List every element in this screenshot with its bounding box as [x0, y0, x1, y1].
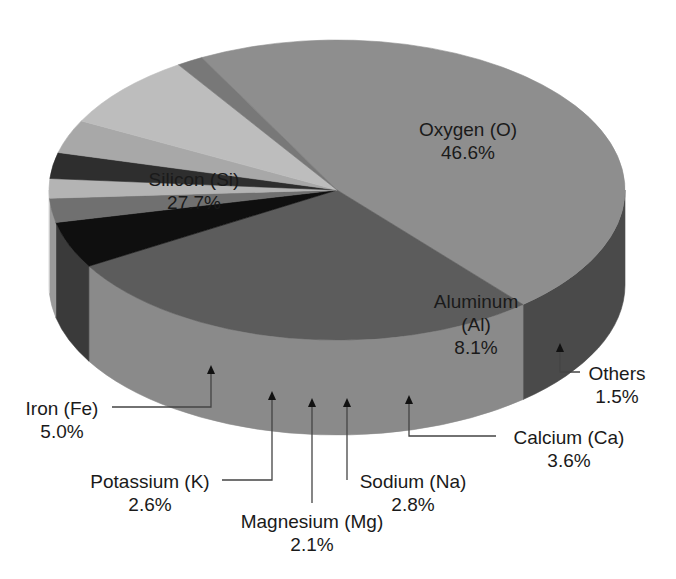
pie-top-faces	[49, 40, 625, 340]
label-aluminum: Aluminum (Al) 8.1%	[434, 290, 518, 359]
label-silicon: Silicon (Si) 27.7%	[149, 168, 240, 214]
oxygen-value: 46.6%	[419, 141, 517, 164]
iron-name: Iron (Fe)	[26, 397, 99, 420]
label-iron: Iron (Fe) 5.0%	[26, 397, 99, 443]
aluminum-name: Aluminum	[434, 290, 518, 313]
label-calcium: Calcium (Ca) 3.6%	[514, 426, 625, 472]
calcium-name: Calcium (Ca)	[514, 426, 625, 449]
label-magnesium: Magnesium (Mg) 2.1%	[241, 510, 384, 556]
potassium-name: Potassium (K)	[90, 470, 209, 493]
iron-value: 5.0%	[26, 420, 99, 443]
calcium-value: 3.6%	[514, 449, 625, 472]
label-others: Others 1.5%	[588, 362, 645, 408]
others-name: Others	[588, 362, 645, 385]
aluminum-symbol: (Al)	[434, 313, 518, 336]
oxygen-name: Oxygen (O)	[419, 118, 517, 141]
sodium-name: Sodium (Na)	[360, 470, 467, 493]
magnesium-name: Magnesium (Mg)	[241, 510, 384, 533]
potassium-value: 2.6%	[90, 493, 209, 516]
label-potassium: Potassium (K) 2.6%	[90, 470, 209, 516]
magnesium-value: 2.1%	[241, 533, 384, 556]
aluminum-value: 8.1%	[434, 336, 518, 359]
label-oxygen: Oxygen (O) 46.6%	[419, 118, 517, 164]
silicon-value: 27.7%	[149, 191, 240, 214]
others-value: 1.5%	[588, 385, 645, 408]
silicon-name: Silicon (Si)	[149, 168, 240, 191]
